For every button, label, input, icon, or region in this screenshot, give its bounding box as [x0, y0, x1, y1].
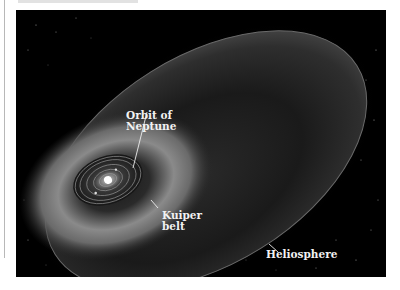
- label-orbit-of-neptune: Orbit of Neptune: [126, 110, 176, 132]
- label-kuiper-belt: Kuiper belt: [162, 210, 202, 232]
- solar-system-diagram: [16, 10, 386, 277]
- label-line-2: belt: [162, 221, 202, 232]
- label-line-2: Neptune: [126, 121, 176, 132]
- heliosphere-illustration: Orbit of Neptune Kuiper belt Heliosphere: [16, 10, 386, 277]
- label-heliosphere: Heliosphere: [266, 249, 337, 260]
- page-margin-rule: [4, 0, 5, 258]
- cut-off-caption-text: [18, 0, 138, 3]
